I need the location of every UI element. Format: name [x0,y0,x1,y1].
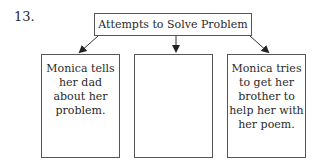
root-node: Attempts to Solve Problem [94,13,252,36]
child-node-2-empty[interactable] [134,54,213,158]
child-node-1: Monica tells her dad about her problem. [41,54,120,158]
item-number: 13. [14,9,35,24]
child-node-3: Monica tries to get her brother to help … [227,54,306,158]
